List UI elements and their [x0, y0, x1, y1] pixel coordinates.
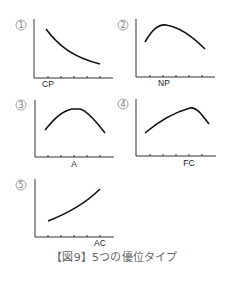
x-axis-label: CP: [42, 79, 54, 89]
x-axis-label: A: [71, 159, 77, 169]
panel-number: 2: [120, 21, 125, 30]
curve-late-peak: [145, 108, 209, 133]
x-axis-label: FC: [183, 158, 194, 168]
dominance-types-figure: 1 CP 2 NP 3 A: [0, 0, 229, 281]
panel-number: 3: [18, 101, 23, 110]
axes: [136, 99, 216, 156]
curve-increasing: [48, 189, 100, 221]
panel-ac: 5 AC: [16, 179, 114, 248]
panel-a: 3 A: [16, 100, 114, 169]
curve-middle-peak: [45, 109, 105, 133]
panel-number: 5: [18, 181, 23, 190]
x-axis-label: AC: [94, 238, 106, 248]
panel-number: 1: [18, 21, 23, 30]
panel-np: 2 NP: [118, 19, 215, 88]
panel-fc: 4 FC: [118, 99, 216, 168]
x-axis-label: NP: [158, 78, 170, 88]
figure-caption: 【図9】5つの優位タイプ: [0, 248, 229, 264]
axes: [34, 19, 113, 78]
panel-number: 4: [120, 100, 125, 109]
curve-early-peak: [145, 25, 205, 49]
panel-cp: 1 CP: [16, 19, 113, 89]
curve-decreasing: [46, 29, 100, 64]
